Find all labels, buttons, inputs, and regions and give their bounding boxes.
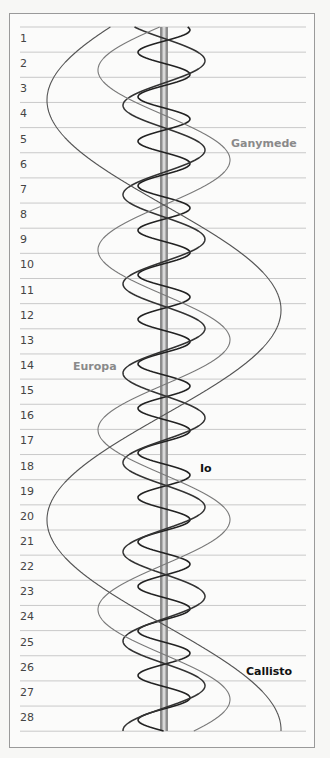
day-label: 13	[20, 334, 34, 347]
day-label: 8	[20, 208, 27, 221]
day-label: 1	[20, 32, 27, 45]
day-label: 6	[20, 158, 27, 171]
day-label: 23	[20, 585, 34, 598]
day-label: 28	[20, 711, 34, 724]
day-label: 25	[20, 636, 34, 649]
day-label: 22	[20, 560, 34, 573]
day-label: 14	[20, 359, 34, 372]
day-label: 11	[20, 284, 34, 297]
day-label: 9	[20, 233, 27, 246]
label-callisto: Callisto	[246, 665, 292, 678]
day-label: 12	[20, 309, 34, 322]
day-label: 27	[20, 686, 34, 699]
day-label: 16	[20, 409, 34, 422]
moon-orbit-chart	[0, 0, 330, 758]
label-ganymede: Ganymede	[231, 137, 297, 150]
day-label: 19	[20, 485, 34, 498]
day-label: 24	[20, 610, 34, 623]
day-label: 10	[20, 258, 34, 271]
day-label: 2	[20, 57, 27, 70]
day-label: 4	[20, 107, 27, 120]
label-io: Io	[200, 462, 212, 475]
day-label: 3	[20, 82, 27, 95]
day-label: 18	[20, 460, 34, 473]
day-label: 17	[20, 434, 34, 447]
day-label: 20	[20, 510, 34, 523]
label-europa: Europa	[73, 360, 117, 373]
day-label: 5	[20, 133, 27, 146]
day-label: 21	[20, 535, 34, 548]
day-label: 7	[20, 183, 27, 196]
day-label: 15	[20, 384, 34, 397]
day-label: 26	[20, 661, 34, 674]
